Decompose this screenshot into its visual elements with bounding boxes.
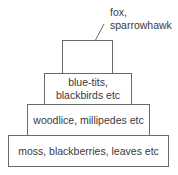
level-3-label-line2: blackbirds etc [56,89,120,102]
level-2-label: woodlice, millipedes etc [33,114,143,127]
level-1-label: moss, blackberries, leaves etc [18,145,159,158]
pyramid-level-1-box: moss, blackberries, leaves etc [8,135,169,167]
level-3-label-line1: blue-tits, [56,76,120,89]
top-level-label-line1: fox, [110,6,172,19]
pyramid-level-4-box [62,40,113,74]
pyramid-level-2-box: woodlice, millipedes etc [27,104,150,136]
top-level-label: fox, sparrowhawk [110,6,172,32]
pyramid-level-3-box: blue-tits, blackbirds etc [44,73,132,105]
top-level-label-line2: sparrowhawk [110,19,172,32]
